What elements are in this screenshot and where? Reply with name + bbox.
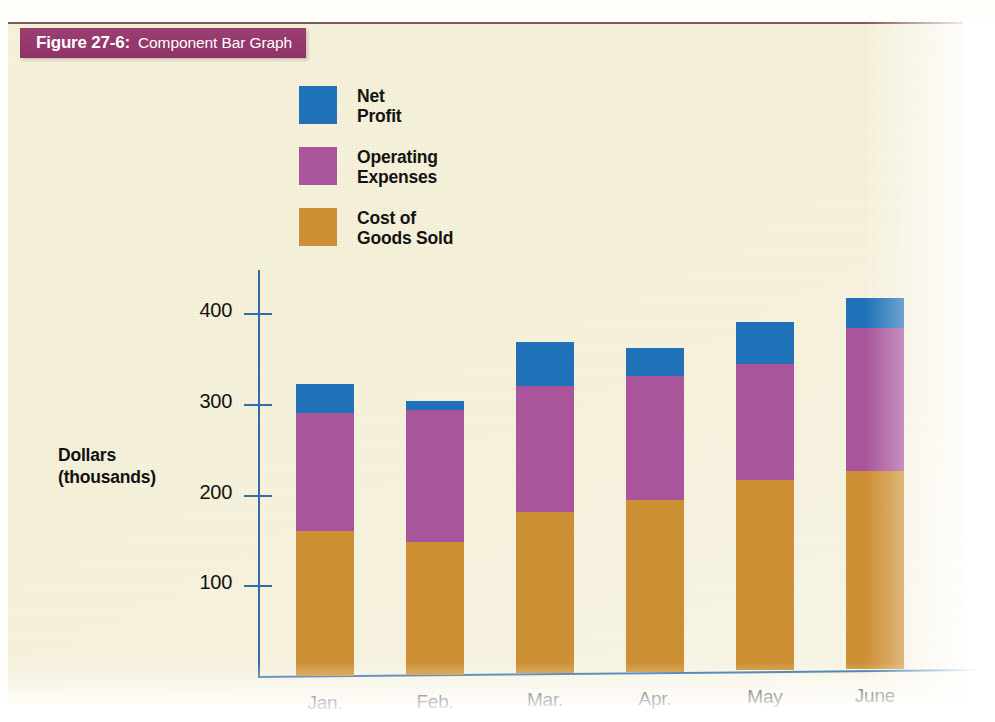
figure-number: Figure 27-6: bbox=[36, 33, 130, 53]
legend-item-operating-expenses: Operating Expenses bbox=[299, 147, 453, 187]
legend-swatch-cost-of-goods-sold bbox=[299, 208, 337, 246]
figure-container: Figure 27-6: Component Bar Graph Net Pro… bbox=[0, 0, 995, 722]
legend-swatch-operating-expenses bbox=[299, 147, 337, 185]
legend-label-cost-of-goods-sold: Cost of Goods Sold bbox=[357, 208, 453, 248]
legend-swatch-net-profit bbox=[299, 86, 337, 124]
legend-item-net-profit: Net Profit bbox=[299, 86, 453, 126]
y-axis-title: Dollars (thousands) bbox=[58, 444, 156, 488]
legend-label-operating-expenses: Operating Expenses bbox=[357, 147, 438, 187]
page-background bbox=[8, 22, 963, 704]
legend-item-cost-of-goods-sold: Cost of Goods Sold bbox=[299, 208, 453, 248]
legend-label-net-profit: Net Profit bbox=[357, 86, 402, 126]
figure-caption-bar: Figure 27-6: Component Bar Graph bbox=[20, 28, 306, 58]
figure-title: Component Bar Graph bbox=[138, 34, 292, 52]
chart-legend: Net Profit Operating Expenses Cost of Go… bbox=[299, 86, 453, 269]
